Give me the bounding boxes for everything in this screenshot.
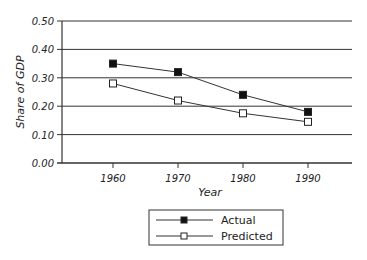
filled-square-marker <box>305 108 312 115</box>
legend-open-square-icon <box>181 233 187 239</box>
y-tick-label: 0.50 <box>32 16 54 27</box>
open-square-marker <box>305 118 312 125</box>
x-tick-label: 1990 <box>295 173 320 184</box>
y-tick-label: 0.10 <box>32 130 54 141</box>
filled-square-marker <box>240 91 247 98</box>
y-tick-label: 0.00 <box>32 158 54 169</box>
filled-square-marker <box>175 69 182 76</box>
legend-label: Actual <box>221 214 255 227</box>
x-tick-label: 1970 <box>165 173 190 184</box>
legend-label: Predicted <box>221 230 273 243</box>
open-square-marker <box>240 110 247 117</box>
x-tick-label: 1980 <box>230 173 255 184</box>
open-square-marker <box>175 97 182 104</box>
y-tick-label: 0.30 <box>32 73 54 84</box>
x-tick-label: 1960 <box>100 173 125 184</box>
series-line <box>113 83 308 121</box>
open-square-marker <box>110 80 117 87</box>
y-axis-label: Share of GDP <box>14 55 27 129</box>
line-chart: 0.000.100.200.300.400.501960197019801990… <box>0 0 367 260</box>
x-axis-label: Year <box>198 186 223 199</box>
y-tick-label: 0.40 <box>32 44 54 55</box>
legend-filled-square-icon <box>181 217 187 223</box>
y-tick-label: 0.20 <box>32 101 54 112</box>
series-line <box>113 64 308 112</box>
filled-square-marker <box>110 60 117 67</box>
